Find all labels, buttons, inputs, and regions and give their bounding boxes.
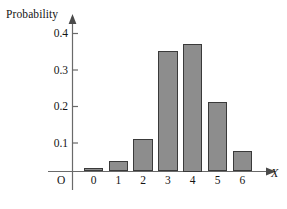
bar-1 xyxy=(109,161,129,172)
y-tick-label-0.4: 0.4 xyxy=(42,27,68,39)
x-tick-label-0: 0 xyxy=(86,174,102,186)
x-tick-label-3: 3 xyxy=(160,174,176,186)
x-tick-label-5: 5 xyxy=(210,174,226,186)
x-tick-label-4: 4 xyxy=(185,174,201,186)
y-axis-title: Probability xyxy=(6,8,58,21)
x-tick-label-6: 6 xyxy=(234,174,250,186)
x-tick-label-1: 1 xyxy=(110,174,126,186)
y-tick-label-0.2: 0.2 xyxy=(42,100,68,112)
bar-0 xyxy=(84,168,104,172)
bar-2 xyxy=(133,139,153,172)
origin-label: O xyxy=(57,174,65,186)
x-axis-title: X xyxy=(271,166,278,181)
probability-bar-chart: Probability X O 0.4 0.3 0.2 0.1 0123456 xyxy=(0,0,287,209)
y-tick-label-0.1: 0.1 xyxy=(42,137,68,149)
x-tick-label-2: 2 xyxy=(135,174,151,186)
bar-6 xyxy=(233,151,253,171)
bar-3 xyxy=(158,51,178,171)
y-axis-arrow-icon xyxy=(69,14,77,24)
y-tick-label-0.3: 0.3 xyxy=(42,64,68,76)
bar-5 xyxy=(208,102,228,171)
bar-4 xyxy=(183,44,203,172)
